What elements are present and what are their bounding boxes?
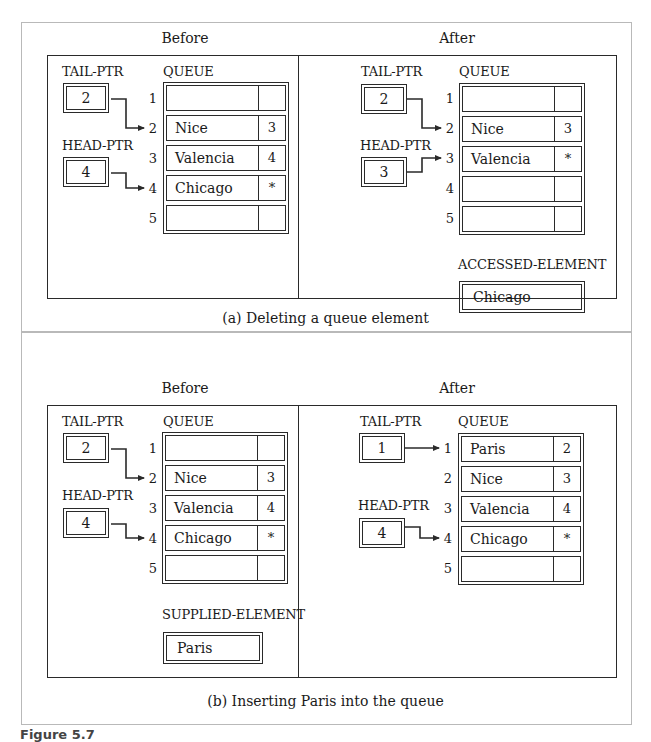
- arrow-a-before-head: [111, 173, 144, 188]
- arrow-b-after-head: [405, 527, 439, 538]
- arrow-a-before-tail: [111, 99, 144, 128]
- arrow-b-before-tail: [111, 449, 144, 478]
- figure-caption: Figure 5.7: [20, 727, 95, 742]
- arrow-a-after-tail: [407, 99, 441, 128]
- arrow-b-before-head: [111, 524, 144, 538]
- arrow-a-after-head: [407, 158, 441, 172]
